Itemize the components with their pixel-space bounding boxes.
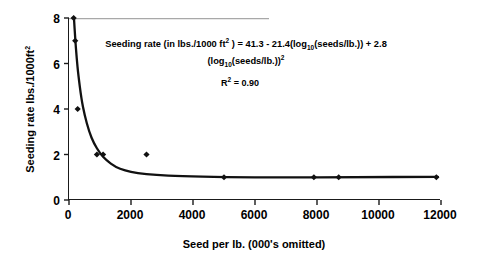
equation-l1-prefix: Seeding rate (in lbs./1000 ft	[105, 39, 225, 49]
equation-annotation: Seeding rate (in lbs./1000 ft2 ) = 41.3 …	[86, 36, 406, 70]
data-point	[72, 38, 78, 44]
y-axis-ticks	[64, 18, 69, 200]
data-point	[336, 174, 342, 180]
x-tick-label-0: 0	[33, 209, 103, 221]
y-axis-title-superscript: 2	[24, 46, 31, 50]
y-tick-label-6: 6	[26, 59, 60, 71]
equation-l1-mid: ) = 41.3 - 21.4(log	[229, 39, 307, 49]
equation-l2-prefix: (log	[208, 56, 225, 66]
x-tick-label-6000: 6000	[219, 209, 289, 221]
y-tick-label-0: 0	[26, 195, 60, 207]
equation-line-1: Seeding rate (in lbs./1000 ft2 ) = 41.3 …	[105, 39, 387, 49]
x-tick-label-4000: 4000	[157, 209, 227, 221]
x-axis-title: Seed per lb. (000's omitted)	[68, 238, 440, 250]
y-tick-label-2: 2	[26, 150, 60, 162]
x-tick-label-2000: 2000	[95, 209, 165, 221]
data-point	[71, 15, 77, 21]
scatter-chart: Seeding rate lbs./1000ft2 0 2 4 6 8 0 20…	[0, 0, 478, 269]
equation-l2-sup: 2	[281, 54, 285, 61]
r-squared-annotation: R2 = 0.90	[160, 76, 320, 88]
r-squared-value: = 0.90	[231, 78, 259, 88]
x-tick-label-8000: 8000	[281, 209, 351, 221]
equation-l1-suffix: (seeds/lb.)) + 2.8	[314, 39, 387, 49]
x-tick-label-12000: 12000	[405, 209, 475, 221]
data-point	[221, 174, 227, 180]
data-point	[75, 106, 81, 112]
equation-l2-sub: 10	[225, 61, 232, 68]
data-point	[433, 174, 439, 180]
equation-l2-mid: (seeds/lb.))	[232, 56, 281, 66]
y-tick-label-8: 8	[26, 13, 60, 25]
data-point	[311, 174, 317, 180]
x-tick-label-10000: 10000	[343, 209, 413, 221]
data-point	[143, 151, 149, 157]
y-tick-label-4: 4	[26, 104, 60, 116]
x-axis-ticks	[69, 200, 441, 205]
equation-line-2: (log10(seeds/lb.))2	[208, 56, 285, 66]
